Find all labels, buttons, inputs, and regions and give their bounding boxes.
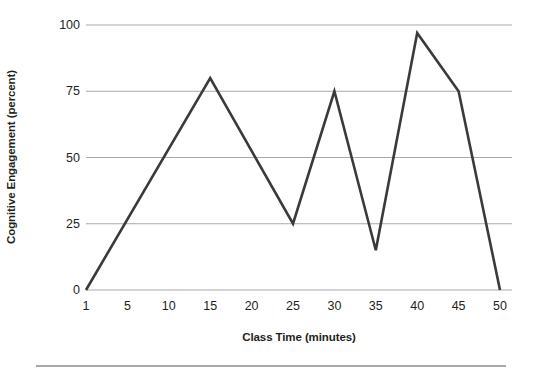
x-tick-label: 20 <box>232 299 272 313</box>
x-tick-label: 50 <box>480 299 520 313</box>
x-tick-label: 30 <box>314 299 354 313</box>
x-tick-label: 40 <box>397 299 437 313</box>
x-tick-label: 15 <box>190 299 230 313</box>
x-axis-title: Class Time (minutes) <box>86 331 512 343</box>
plot-area <box>0 0 542 373</box>
bottom-divider <box>36 365 506 367</box>
x-tick-label: 25 <box>273 299 313 313</box>
data-series-group <box>86 33 500 290</box>
x-axis-tick-labels: 15101520253035404550 <box>0 299 542 317</box>
x-tick-label: 45 <box>439 299 479 313</box>
x-tick-label: 35 <box>356 299 396 313</box>
x-tick-label: 1 <box>66 299 106 313</box>
chart-figure: Cognitive Engagement (percent) 025507510… <box>0 0 542 373</box>
gridlines <box>86 25 512 224</box>
x-tick-label: 5 <box>107 299 147 313</box>
data-line-series-0 <box>86 33 500 290</box>
x-tick-label: 10 <box>149 299 189 313</box>
